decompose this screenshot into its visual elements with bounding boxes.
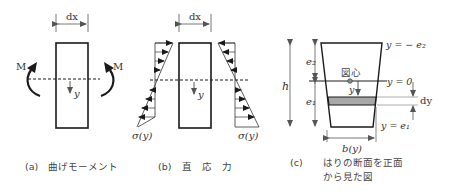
width-label: b(y) — [342, 143, 362, 154]
dy-label: dy — [420, 95, 432, 106]
caption-a-tag: (a) — [25, 161, 38, 172]
y-label: y — [73, 88, 80, 99]
dx-dimension-b: dx — [179, 11, 211, 32]
beam-element — [56, 43, 88, 128]
dx-dimension: dx — [56, 11, 88, 32]
e1-label: e₁ — [306, 96, 316, 107]
stress-distribution-left — [137, 43, 173, 127]
e2-label: e₂ — [306, 56, 316, 67]
caption-b: 直 応 力 — [182, 161, 232, 172]
dx-label-b: dx — [189, 11, 201, 22]
moment-arrow-left-icon — [28, 70, 40, 96]
strip-dy — [328, 97, 376, 105]
moment-arrow-right-icon — [101, 70, 113, 96]
moment-label-left: M — [16, 61, 26, 72]
stress-label-left: σ(y) — [132, 130, 152, 141]
dx-label: dx — [66, 11, 78, 22]
caption-c-line2: から見た図 — [323, 171, 373, 182]
beam-bending-diagram: dx y M M (a) 曲げモーメント dx — [0, 0, 450, 191]
mid-label: y = 0 — [386, 76, 412, 87]
panel-c-cross-section: 図心 y h e₂ e₁ b(y) dy y = − e₂ y = 0 y = … — [282, 39, 432, 182]
caption-c-line1: はりの断面を正面 — [323, 157, 403, 168]
moment-label-right: M — [113, 61, 123, 72]
caption-c-tag: (c) — [290, 157, 303, 168]
y-label-b: y — [197, 89, 204, 100]
panel-b-normal-stress: dx y σ(y) — [132, 11, 259, 172]
stress-distribution-right — [218, 43, 259, 127]
stress-label-right: σ(y) — [238, 130, 258, 141]
top-label: y = − e₂ — [385, 39, 426, 50]
panel-a-bending-moment: dx y M M (a) 曲げモーメント — [16, 11, 123, 172]
centroid-dot-icon — [348, 79, 353, 84]
bottom-label: y = e₁ — [380, 120, 410, 131]
caption-b-tag: (b) — [158, 161, 171, 172]
caption-a: 曲げモーメント — [48, 161, 118, 172]
centroid-label: 図心 — [341, 67, 361, 78]
beam-element-b — [179, 43, 211, 128]
y-label-c: y — [348, 84, 355, 95]
h-label: h — [282, 80, 289, 93]
